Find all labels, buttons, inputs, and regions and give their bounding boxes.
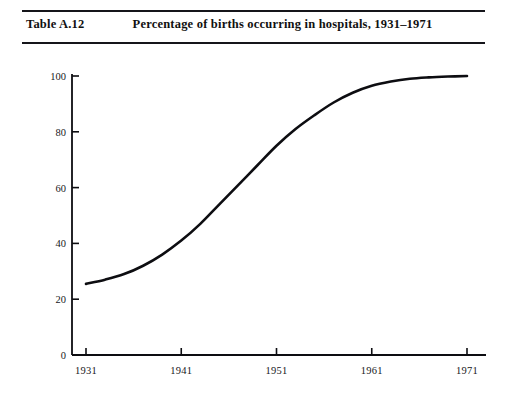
y-axis-tick-label: 40 bbox=[20, 238, 66, 249]
x-axis-ticks bbox=[86, 348, 467, 355]
x-axis-tick-label: 1941 bbox=[170, 365, 192, 376]
y-axis-tick-label: 60 bbox=[20, 182, 66, 193]
figure-page: Table A.12 Percentage of births occurrin… bbox=[0, 0, 507, 404]
axis-spines bbox=[72, 74, 486, 355]
x-axis-tick-label: 1971 bbox=[456, 365, 478, 376]
y-axis-ticks bbox=[72, 76, 79, 355]
data-series-group bbox=[86, 76, 467, 284]
y-axis-tick-label: 0 bbox=[20, 350, 66, 361]
line-chart: 020406080100 19311941195119611971 bbox=[0, 0, 507, 404]
x-axis-tick-label: 1931 bbox=[75, 365, 97, 376]
y-axis-tick-label: 100 bbox=[20, 71, 66, 82]
series-line bbox=[86, 76, 467, 284]
y-axis-tick-label: 20 bbox=[20, 294, 66, 305]
x-axis-tick-label: 1951 bbox=[265, 365, 287, 376]
y-axis-tick-label: 80 bbox=[20, 126, 66, 137]
chart-canvas bbox=[0, 0, 507, 404]
x-axis-tick-label: 1961 bbox=[361, 365, 383, 376]
